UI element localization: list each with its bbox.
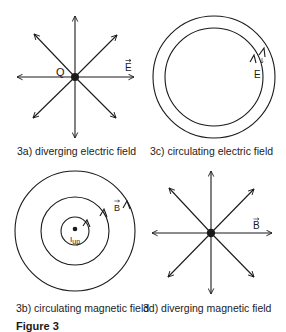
caption-3b: 3b) circulating magnetic field (16, 302, 149, 314)
vector-arrow-icon (261, 58, 263, 63)
panel-3a-diverging-electric-field (17, 16, 134, 138)
svg-text:E: E (254, 69, 261, 80)
point-charge-dot (71, 73, 79, 81)
field-line-downleft (33, 77, 75, 118)
field-loop-inner (165, 28, 263, 126)
loop-arrow-outer-icon (259, 48, 265, 57)
field-line-upleft (34, 34, 75, 77)
field-line-downright (75, 77, 116, 118)
figure-title: Figure 3 (16, 320, 59, 332)
field-label-b-3b: B (114, 200, 120, 213)
field-line-upleft (169, 188, 211, 233)
svg-text:B: B (253, 220, 260, 231)
field-line-upright (75, 35, 117, 77)
panel-3b-circulating-magnetic-field (15, 171, 135, 291)
current-label-i-up: Iup (70, 235, 80, 246)
field-line-downright (211, 233, 254, 277)
field-line-downleft (168, 233, 211, 277)
caption-3d: 3d) diverging magnetic field (143, 302, 271, 314)
field-label-b-3d: B (253, 218, 260, 231)
source-dot (207, 229, 215, 237)
loop-arrow-outer-icon (123, 201, 130, 209)
field-label-e-3a: E (125, 59, 132, 73)
charge-label-q: Q (56, 66, 65, 78)
field-label-e-3c: E (254, 69, 261, 80)
svg-text:B: B (114, 203, 120, 213)
caption-3c: 3c) circulating electric field (150, 145, 273, 157)
vector-arrow-icon (115, 200, 120, 202)
svg-text:E: E (125, 62, 132, 73)
svg-text:Iup: Iup (70, 235, 80, 246)
caption-3a: 3a) diverging electric field (17, 145, 136, 157)
current-dot (73, 227, 78, 232)
loop-arrow-inner-icon (250, 55, 256, 63)
field-line-upright (211, 189, 254, 233)
panel-3d-diverging-magnetic-field (152, 171, 272, 294)
